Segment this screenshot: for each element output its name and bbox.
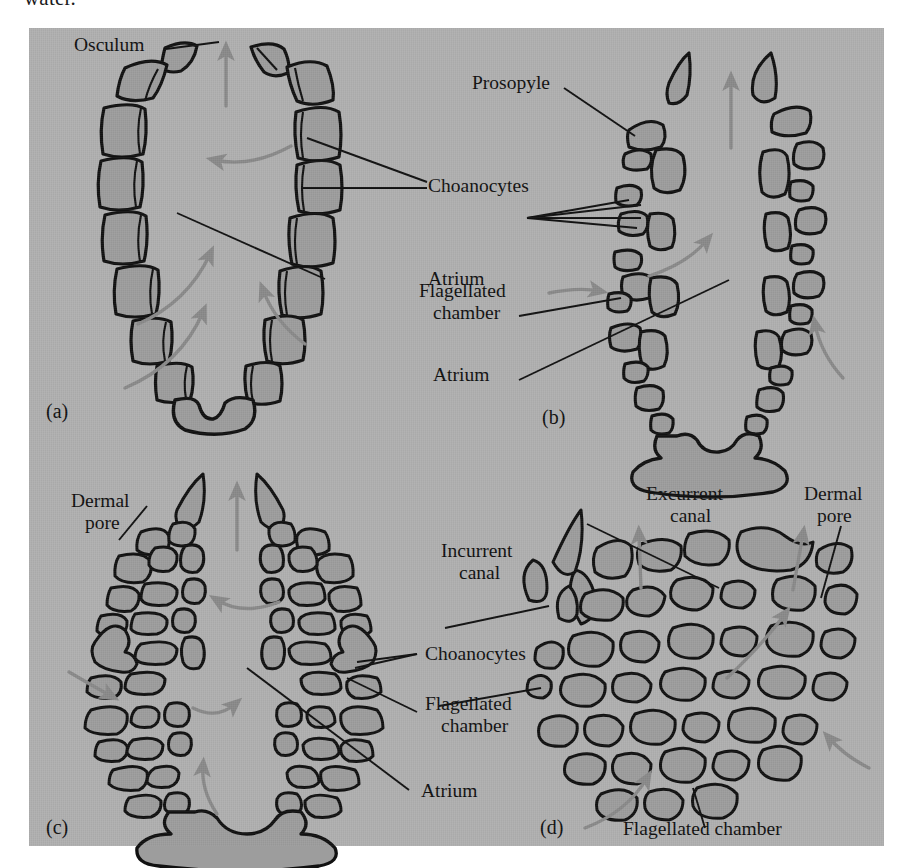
label-choanocytes-a: Choanocytes	[428, 175, 529, 196]
panel-label-b: (b)	[542, 406, 565, 429]
label-dermal-pore-c-line2: pore	[85, 512, 120, 533]
panel-c-cells	[85, 474, 383, 817]
panel-a-artwork	[98, 42, 427, 434]
label-flagellated-chamber-d-bottom: Flagellated chamber	[623, 818, 782, 839]
label-atrium-c: Atrium	[421, 780, 477, 801]
figure-plate: Osculum Choanocytes Atrium (a) Prosopyle…	[29, 28, 884, 846]
panel-d-chambers	[524, 510, 857, 820]
label-flagellated-chamber-b-line1: Flagellated	[419, 280, 506, 301]
panel-a-base	[173, 398, 254, 435]
panel-label-a: (a)	[46, 400, 68, 423]
panel-b-cells	[608, 53, 826, 434]
label-prosopyle: Prosopyle	[472, 72, 550, 93]
cropped-body-text: water.	[24, 0, 76, 11]
panel-c-base	[137, 811, 336, 868]
label-incurrent-canal-line2: canal	[459, 562, 500, 583]
label-excurrent-canal-line1: Excurrent	[646, 483, 723, 504]
label-osculum: Osculum	[74, 34, 144, 55]
figure-page: water.	[0, 0, 908, 868]
label-dermal-pore-d-line1: Dermal	[804, 483, 862, 504]
label-atrium-b: Atrium	[433, 364, 489, 385]
panel-label-c: (c)	[46, 816, 68, 839]
panel-c-artwork	[69, 474, 417, 868]
label-flagellated-chamber-c-line2: chamber	[441, 715, 508, 736]
panel-label-d: (d)	[540, 816, 563, 839]
label-flagellated-chamber-c-line1: Flagellated	[425, 693, 512, 714]
label-dermal-pore-d-line2: pore	[817, 505, 852, 526]
label-excurrent-canal-line2: canal	[670, 505, 711, 526]
label-dermal-pore-c-line1: Dermal	[71, 490, 129, 511]
panel-b-artwork	[519, 53, 843, 497]
label-choanocytes-c: Choanocytes	[425, 643, 526, 664]
panel-a-cells-right	[245, 44, 342, 404]
label-flagellated-chamber-b-line2: chamber	[433, 302, 500, 323]
label-incurrent-canal-line1: Incurrent	[441, 540, 512, 561]
